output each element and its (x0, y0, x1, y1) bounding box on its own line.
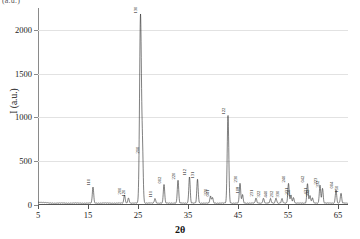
x-tick (38, 205, 39, 209)
y-tick-label: 1000 (15, 112, 32, 122)
x-tick-label: 15 (84, 210, 93, 220)
peak-label: 131 (192, 171, 197, 178)
x-tick (338, 205, 339, 209)
peak-label: 111 (149, 191, 154, 198)
plot-area: 0500100015002000 5152535455565 110200120… (38, 8, 348, 205)
x-tick-label: 45 (234, 210, 243, 220)
x-tick-label: 5 (36, 210, 40, 220)
peak-label: 042 (302, 176, 307, 183)
y-tick-label: 0 (28, 200, 32, 210)
x-tick (188, 205, 189, 209)
peak-label: 231 (250, 190, 255, 197)
peak-label: 112 (184, 169, 189, 176)
x-tick-label: 55 (284, 210, 293, 220)
peak-label: 120 (123, 190, 128, 197)
xrd-figure: (a.u.) I (a.u.) 2θ 0500100015002000 5152… (0, 0, 360, 239)
peak-label: 220 (172, 172, 177, 179)
peak-label: 041 (207, 190, 212, 197)
peak-label: 332 (307, 190, 312, 197)
y-tick-label: 1500 (15, 69, 32, 79)
x-tick-label: 35 (184, 210, 193, 220)
x-tick-label: 25 (134, 210, 143, 220)
peak-label: 110 (87, 179, 92, 186)
x-tick-label: 65 (334, 210, 343, 220)
peak-label: 250 (288, 190, 293, 197)
peak-label: 330 (276, 191, 281, 198)
peak-label: 240 (283, 176, 288, 183)
x-axis-title: 2θ (0, 224, 360, 235)
peak-label: 150 (335, 185, 340, 192)
peak-label: 108 (237, 187, 242, 194)
x-tick (288, 205, 289, 209)
peak-label: 230 (234, 175, 239, 182)
peak-label: 002 (158, 176, 163, 183)
peak-label: 212 (270, 190, 275, 197)
peak-label: 122 (222, 107, 227, 114)
x-tick (238, 205, 239, 209)
peak-label: 332 (317, 180, 322, 187)
peak-label: 130 (135, 7, 140, 14)
corner-label: (a.u.) (2, 0, 20, 5)
x-tick (88, 205, 89, 209)
peak-label: 210 (137, 146, 142, 153)
y-tick-label: 2000 (15, 25, 32, 35)
y-tick-label: 500 (19, 156, 32, 166)
peak-label: 322 (258, 191, 263, 198)
x-tick (138, 205, 139, 209)
